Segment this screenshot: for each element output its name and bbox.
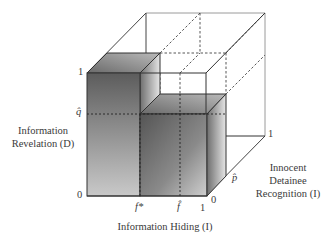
z-axis-label: Innocent Detainee Recognition (I) <box>255 161 321 200</box>
y-axis-label-line2: Revelation (D) <box>8 137 78 150</box>
z-axis-label-line1: Innocent <box>255 161 321 174</box>
z-tick-one: 1 <box>268 128 273 139</box>
x-axis-label: Information Hiding (I) <box>100 220 230 233</box>
x-tick-fstar: f* <box>135 201 143 212</box>
y-axis-label-line1: Information <box>8 124 78 137</box>
cube-diagram <box>0 0 321 241</box>
x-tick-one: 1 <box>200 202 205 213</box>
z-tick-phat: p̂ <box>232 172 237 183</box>
x-tick-fhat: f̂ <box>177 201 180 212</box>
left-block-front <box>87 73 140 196</box>
z-axis-label-line2: Detainee <box>255 174 321 187</box>
z-tick-zero: 0 <box>211 194 216 205</box>
y-tick-one: 1 <box>78 66 83 77</box>
y-tick-zero: 0 <box>77 189 82 200</box>
z-axis-label-line3: Recognition (I) <box>255 187 321 200</box>
right-block-front <box>140 114 207 196</box>
y-tick-qhat: q̂ <box>76 106 81 117</box>
y-axis-label: Information Revelation (D) <box>8 124 78 150</box>
